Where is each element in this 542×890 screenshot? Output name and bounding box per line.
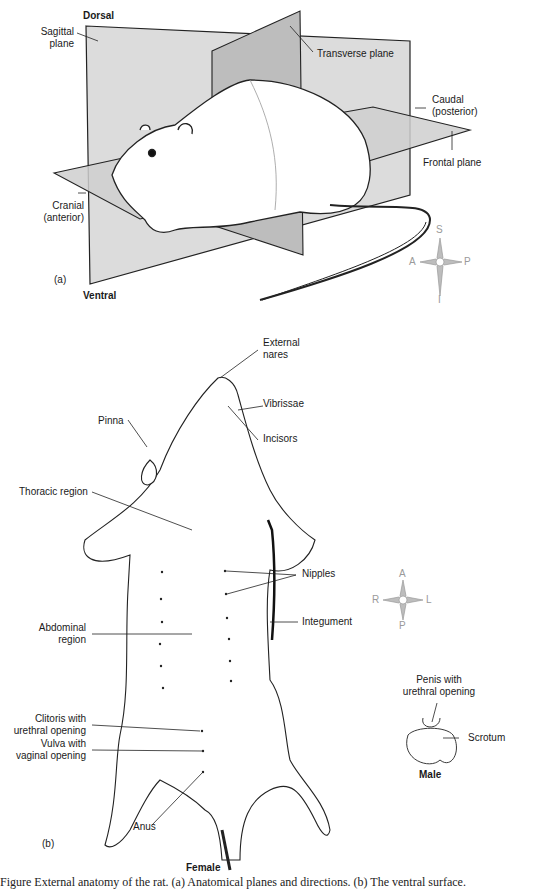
compass-a-posterior: P bbox=[464, 256, 471, 267]
label-female: Female bbox=[186, 862, 220, 874]
label-ventral: Ventral bbox=[83, 290, 116, 302]
label-cranial-line1: Cranial bbox=[36, 200, 84, 212]
label-penis-line2: urethral opening bbox=[400, 686, 478, 698]
label-cranial: Cranial (anterior) bbox=[36, 200, 84, 224]
label-thoracic-region: Thoracic region bbox=[19, 486, 88, 498]
compass-a-superior: S bbox=[436, 224, 443, 235]
label-nipples: Nipples bbox=[302, 568, 335, 580]
label-clitoris-line1: Clitoris with bbox=[2, 713, 86, 725]
label-external-nares: External nares bbox=[263, 337, 300, 361]
label-caudal: Caudal (posterior) bbox=[432, 94, 478, 118]
compass-b-right: R bbox=[372, 594, 379, 605]
label-integument: Integument bbox=[302, 616, 352, 628]
label-cranial-line2: (anterior) bbox=[36, 212, 84, 224]
label-caudal-line2: (posterior) bbox=[432, 106, 478, 118]
label-incisors: Incisors bbox=[263, 433, 297, 445]
label-penis-line1: Penis with bbox=[400, 674, 478, 686]
figure-caption: Figure External anatomy of the rat. (a) … bbox=[0, 875, 466, 890]
compass-b-left: L bbox=[426, 594, 432, 605]
label-vulva-line2: vaginal opening bbox=[2, 750, 86, 762]
label-anus: Anus bbox=[133, 821, 156, 833]
compass-b-anterior: A bbox=[399, 568, 406, 579]
male-genitalia bbox=[407, 718, 457, 764]
compass-b bbox=[383, 580, 423, 620]
label-scrotum: Scrotum bbox=[468, 732, 505, 744]
panel-label-b: (b) bbox=[42, 838, 54, 850]
label-abdominal-line1: Abdominal bbox=[30, 622, 86, 634]
label-sagittal-line1: Sagittal bbox=[38, 26, 74, 38]
label-vulva: Vulva with vaginal opening bbox=[2, 738, 86, 762]
label-male: Male bbox=[419, 769, 441, 781]
label-sagittal-line2: plane bbox=[38, 38, 74, 50]
label-clitoris: Clitoris with urethral opening bbox=[2, 713, 86, 737]
label-abdominal-region: Abdominal region bbox=[30, 622, 86, 646]
compass-b-posterior: P bbox=[399, 620, 406, 631]
label-abdominal-line2: region bbox=[30, 634, 86, 646]
label-clitoris-line2: urethral opening bbox=[2, 725, 86, 737]
label-pinna: Pinna bbox=[98, 415, 124, 427]
compass-a-inferior: I bbox=[438, 294, 441, 305]
label-penis: Penis with urethral opening bbox=[400, 674, 478, 698]
label-sagittal-plane: Sagittal plane bbox=[38, 26, 74, 50]
compass-a bbox=[420, 238, 462, 296]
label-frontal-plane: Frontal plane bbox=[423, 157, 481, 169]
panel-label-a: (a) bbox=[54, 274, 66, 286]
rat-ventral bbox=[84, 377, 330, 860]
label-external-nares-line1: External bbox=[263, 337, 300, 349]
label-caudal-line1: Caudal bbox=[432, 94, 478, 106]
label-vibrissae: Vibrissae bbox=[263, 398, 304, 410]
label-external-nares-line2: nares bbox=[263, 349, 300, 361]
label-dorsal: Dorsal bbox=[83, 10, 114, 22]
label-vulva-line1: Vulva with bbox=[2, 738, 86, 750]
compass-a-anterior: A bbox=[409, 256, 416, 267]
label-transverse-plane: Transverse plane bbox=[317, 48, 394, 60]
